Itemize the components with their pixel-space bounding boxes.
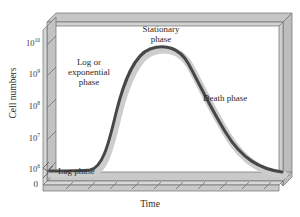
annotation-stationary-phase: Stationary phase (130, 24, 192, 44)
y-tick-mantissa: 10 (29, 133, 38, 143)
growth-curve-figure: 1010 109 108 107 106 0 Cell numbers Time… (0, 0, 300, 217)
frame-top-band (47, 13, 292, 22)
y-axis-slab-face (43, 26, 47, 185)
log-phase-line1: Log or (58, 57, 120, 67)
annotation-log-phase: Log or exponential phase (58, 57, 120, 87)
y-tick-exponent: 10 (35, 37, 41, 43)
y-tick-label-10e6: 106 (4, 164, 40, 174)
frame-right-band-front (279, 22, 283, 186)
y-tick-mantissa: 10 (29, 164, 38, 174)
x-axis-slab-front (43, 185, 279, 191)
y-tick-exponent: 6 (37, 163, 40, 169)
log-phase-line2: exponential (58, 67, 120, 77)
annotation-death-phase: Death phase (203, 93, 247, 103)
y-tick-label-10e10: 1010 (4, 38, 40, 48)
y-axis-slab-top (47, 17, 56, 181)
annotation-lag-phase: Lag phase (58, 166, 95, 176)
y-axis-title: Cell numbers (8, 57, 18, 129)
y-origin-label: 0 (20, 179, 38, 189)
y-tick-mantissa: 10 (29, 69, 38, 79)
y-tick-exponent: 8 (37, 100, 40, 106)
death-phase-text: Death phase (203, 93, 247, 103)
y-tick-label-10e7: 107 (4, 133, 40, 143)
stationary-phase-line1: Stationary (130, 24, 192, 34)
y-tick-mantissa: 10 (26, 38, 35, 48)
lag-phase-text: Lag phase (58, 166, 95, 176)
log-phase-line3: phase (58, 77, 120, 87)
y-tick-mantissa: 10 (29, 101, 38, 111)
x-axis-title: Time (0, 199, 300, 209)
y-tick-exponent: 7 (37, 132, 40, 138)
frame-right-band (283, 13, 292, 186)
stationary-phase-line2: phase (130, 34, 192, 44)
y-tick-exponent: 9 (37, 68, 40, 74)
